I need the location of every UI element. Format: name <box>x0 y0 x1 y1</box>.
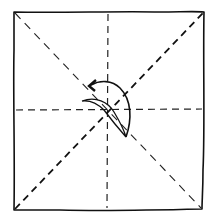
diagram-drawing <box>0 0 214 219</box>
arrowhead-icon <box>89 80 96 91</box>
fold-flap <box>82 99 126 137</box>
diagonal-bl-tr-crease <box>15 13 203 209</box>
origami-diagram <box>0 0 214 219</box>
